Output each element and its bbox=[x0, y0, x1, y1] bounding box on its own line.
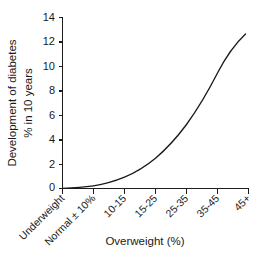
y-tick-label-4: 4 bbox=[49, 133, 55, 145]
y-tick-label-12: 12 bbox=[43, 35, 55, 47]
x-axis-title: Overweight (%) bbox=[105, 235, 184, 247]
x-tick-label-45plus: 45+ bbox=[231, 192, 252, 213]
y-tick-label-6: 6 bbox=[49, 109, 55, 121]
x-tick-label-25-35: 25-35 bbox=[163, 192, 191, 220]
y-tick-label-8: 8 bbox=[49, 84, 55, 96]
diabetes-risk-curve bbox=[63, 34, 246, 188]
x-tick-label-15-25: 15-25 bbox=[132, 192, 160, 220]
y-tick-label-0: 0 bbox=[49, 181, 55, 193]
y-tick-label-14: 14 bbox=[43, 11, 55, 23]
y-tick-label-2: 2 bbox=[49, 158, 55, 170]
y-axis-title-line1: Development of diabetes bbox=[6, 39, 18, 166]
x-tick-label-10-15: 10-15 bbox=[101, 192, 129, 220]
x-axis-ticks bbox=[63, 189, 249, 194]
caption-strip bbox=[0, 249, 259, 258]
figure-panel: 14 12 10 8 6 4 2 0 Underweight Normal ± … bbox=[0, 0, 259, 258]
y-axis-title-line2: % in 10 years bbox=[22, 68, 34, 138]
diabetes-overweight-line-chart: 14 12 10 8 6 4 2 0 Underweight Normal ± … bbox=[0, 0, 259, 258]
x-tick-label-35-45: 35-45 bbox=[194, 192, 222, 220]
y-tick-label-10: 10 bbox=[43, 60, 55, 72]
